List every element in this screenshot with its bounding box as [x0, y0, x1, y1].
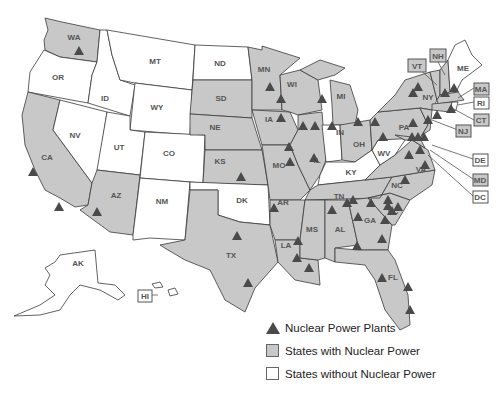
legend-label: States with Nuclear Power [285, 345, 420, 357]
svg-text:FL: FL [388, 273, 398, 282]
svg-text:MT: MT [149, 57, 161, 66]
svg-text:MD: MD [474, 176, 487, 185]
legend-item-with-nuclear: States with Nuclear Power [266, 339, 436, 362]
state-hi [152, 282, 178, 296]
svg-text:WY: WY [151, 103, 165, 112]
svg-text:CT: CT [476, 116, 487, 125]
svg-text:RI: RI [477, 99, 485, 108]
svg-text:ME: ME [457, 64, 470, 73]
plant-marker-icon [432, 110, 442, 119]
svg-text:KY: KY [345, 168, 357, 177]
svg-text:DE: DE [474, 156, 486, 165]
state-ks [203, 150, 268, 185]
plant-marker-icon [54, 202, 64, 211]
svg-text:SD: SD [215, 94, 226, 103]
svg-text:PA: PA [399, 123, 410, 132]
svg-text:AK: AK [72, 259, 84, 268]
svg-text:NH: NH [432, 52, 444, 61]
svg-text:CO: CO [163, 149, 175, 158]
svg-text:WA: WA [68, 33, 81, 42]
svg-text:ID: ID [101, 94, 109, 103]
svg-text:TN: TN [334, 192, 345, 201]
svg-text:OR: OR [52, 73, 64, 82]
svg-text:MA: MA [475, 85, 488, 94]
svg-text:MN: MN [258, 65, 271, 74]
legend-label: Nuclear Power Plants [285, 322, 396, 334]
legend-item-without-nuclear: States without Nuclear Power [266, 362, 436, 385]
state-ak [14, 250, 125, 316]
svg-text:AR: AR [277, 198, 289, 207]
svg-text:NY: NY [422, 93, 434, 102]
svg-text:UT: UT [114, 143, 125, 152]
svg-text:WI: WI [287, 80, 297, 89]
svg-text:LA: LA [281, 241, 292, 250]
svg-text:NE: NE [209, 123, 221, 132]
svg-text:NV: NV [69, 131, 81, 140]
svg-text:IA: IA [265, 115, 273, 124]
triangle-icon [266, 322, 280, 334]
svg-text:DK: DK [236, 196, 248, 205]
svg-text:NJ: NJ [458, 127, 468, 136]
white-swatch-icon [266, 367, 279, 380]
svg-text:MO: MO [273, 161, 286, 170]
svg-text:AZ: AZ [111, 191, 122, 200]
svg-text:TX: TX [226, 251, 237, 260]
state-nm [133, 178, 190, 240]
svg-text:WV: WV [378, 149, 392, 158]
svg-text:MI: MI [337, 92, 346, 101]
svg-text:GA: GA [364, 216, 376, 225]
legend-label: States without Nuclear Power [285, 368, 436, 380]
svg-text:OH: OH [353, 140, 365, 149]
svg-text:KS: KS [214, 157, 226, 166]
svg-text:CA: CA [41, 153, 53, 162]
svg-text:HI: HI [141, 292, 149, 301]
state-mi [330, 80, 358, 125]
state-ny [378, 72, 437, 112]
svg-text:IN: IN [336, 128, 344, 137]
svg-text:ND: ND [214, 59, 226, 68]
legend: Nuclear Power Plants States with Nuclear… [266, 316, 436, 385]
svg-text:MS: MS [306, 225, 319, 234]
legend-item-plants: Nuclear Power Plants [266, 316, 436, 339]
svg-text:DC: DC [474, 193, 486, 202]
svg-text:NM: NM [156, 197, 169, 206]
svg-text:AL: AL [335, 225, 346, 234]
gray-swatch-icon [266, 344, 279, 357]
svg-text:VT: VT [412, 62, 422, 71]
